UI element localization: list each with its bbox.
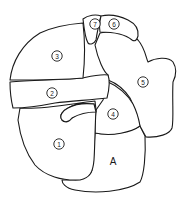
svg-text:1: 1 [57,141,61,148]
svg-text:A: A [110,156,117,167]
svg-text:6: 6 [112,21,116,28]
label-7: 7 [90,19,100,29]
segment-diagram: 1 2 3 4 5 6 7 A [0,0,196,205]
label-2: 2 [47,88,57,98]
svg-text:5: 5 [141,79,145,86]
label-4: 4 [108,109,118,119]
svg-text:7: 7 [93,21,97,28]
region-3 [10,23,85,80]
label-5: 5 [138,77,148,87]
label-3: 3 [52,51,62,61]
svg-text:3: 3 [55,53,59,60]
label-1: 1 [54,139,64,149]
svg-text:2: 2 [50,90,54,97]
label-6: 6 [109,19,119,29]
svg-text:4: 4 [111,111,115,118]
label-a: A [110,156,117,167]
